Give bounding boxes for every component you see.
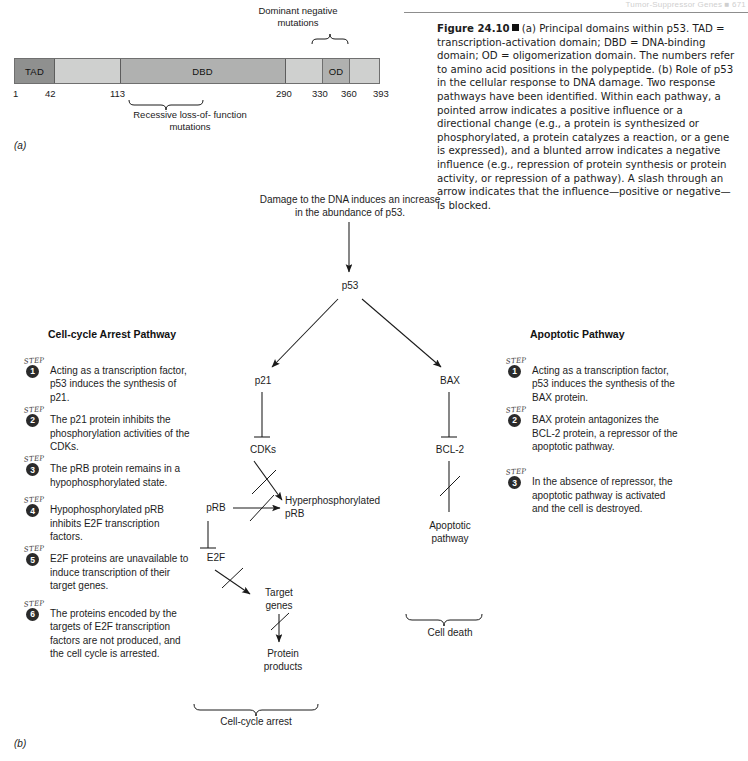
left-step-2-text: The p21 protein inhibits the phosphoryla… [50,414,190,452]
domain-bar-outline: TAD DBD OD [14,58,380,84]
bracket-cell-death [406,614,482,626]
left-step-2: STEP 2 The p21 protein inhibits the phos… [24,413,192,453]
domain-tick-42 [54,59,55,83]
p53-domain-bar: TAD DBD OD [14,58,380,84]
caption-figure-label: Figure 24.10 [437,23,510,34]
right-pathway-title: Apoptotic Pathway [530,328,625,340]
node-apoptotic-pathway: Apoptotic pathway [414,520,486,545]
left-step-5-number: 5 [26,553,39,566]
node-prb: pRB [195,502,237,515]
right-step-2: STEP 2 BAX protein antagonizes the BCL-2… [506,413,684,453]
node-e2f: E2F [196,552,236,565]
node-p53: p53 [330,280,370,293]
left-step-1-text: Acting as a transcription factor, p53 in… [50,365,187,403]
brace-dominant-negative [312,34,348,44]
node-target-genes: Target genes [252,587,306,612]
panel-a-letter: (a) [14,140,26,151]
slash-target-genes-block [271,613,289,630]
left-step-5: STEP 5 E2F proteins are unavailable to i… [24,552,192,592]
domain-segment-tad: TAD [15,59,54,83]
axis-number-1: 1 [13,88,18,99]
left-step-4-text: Hypophosphorylated pRB inhibits E2F tran… [50,504,164,542]
right-step-3-text: In the absence of repressor, the apoptot… [532,476,673,514]
domain-segment-od: OD [322,59,350,83]
axis-number-330: 330 [312,88,328,99]
caption-square-icon [512,24,519,31]
bracket-label-cell-death: Cell death [392,627,508,638]
axis-number-42: 42 [45,88,56,99]
bracket-cell-cycle-arrest [194,704,318,716]
node-p21: p21 [243,375,283,388]
axis-number-113: 113 [110,88,125,99]
running-head: Tumor-Suppressor Genes ■ 671 [626,0,746,9]
axis-number-393: 393 [373,88,389,99]
left-step-3-number: 3 [26,463,39,476]
right-step-3-number: 3 [508,476,521,489]
domain-segment-dbd: DBD [120,59,285,83]
right-pathway-steps: STEP 1 Acting as a transcription factor,… [506,364,684,525]
right-step-2-number: 2 [508,414,521,427]
right-step-3: STEP 3 In the absence of repressor, the … [506,475,684,515]
bracket-label-cell-cycle-arrest: Cell-cycle arrest [186,716,326,727]
arrow-p53-to-p21 [272,299,338,367]
slash-prb-hyperphos-block [250,495,274,521]
left-step-3: STEP 3 The pRB protein remains in a hypo… [24,462,192,489]
right-step-2-text: BAX protein antagonizes the BCL-2 protei… [532,414,678,452]
left-step-6-number: 6 [26,608,39,621]
figure-page: Tumor-Suppressor Genes ■ 671 TAD DBD OD … [0,0,748,761]
right-step-1: STEP 1 Acting as a transcription factor,… [506,364,684,404]
left-step-4-number: 4 [26,504,39,517]
recessive-loss-label: Recessive loss-of- function mutations [125,109,255,133]
node-cdks: CDKs [238,444,288,457]
slash-bcl2-block [440,476,460,496]
figure-caption: Figure 24.10(a) Principal domains within… [437,22,737,212]
domain-segment-spacer3 [350,59,379,83]
left-step-1-number: 1 [26,365,39,378]
domain-tick-113 [120,59,121,83]
left-pathway-title: Cell-cycle Arrest Pathway [48,328,176,340]
left-step-4: STEP 4 Hypophosphorylated pRB inhibits E… [24,503,192,543]
left-pathway-steps: STEP 1 Acting as a transcription factor,… [24,364,192,669]
node-bax: BAX [428,375,472,388]
left-step-1: STEP 1 Acting as a transcription factor,… [24,364,192,404]
arrow-cdks-to-phosphorylation [254,461,282,500]
arrow-p53-to-bax [362,299,441,367]
top-rule [404,12,748,13]
slash-cdks-block [252,470,276,494]
node-bcl2: BCL-2 [424,444,476,457]
panel-b-letter: (b) [14,738,26,749]
left-step-2-number: 2 [26,414,39,427]
domain-segment-spacer2 [285,59,322,83]
left-step-6: STEP 6 The proteins encoded by the targe… [24,607,192,661]
damage-description: Damage to the DNA induces an increase in… [255,193,445,219]
domain-segment-spacer1 [54,59,120,83]
dominant-negative-label: Dominant negative mutations [238,5,358,29]
left-step-6-text: The proteins encoded by the targets of E… [50,608,181,659]
axis-number-290: 290 [276,88,292,99]
slash-e2f-block [222,568,243,588]
right-step-1-number: 1 [508,365,521,378]
caption-text-b: (b) Role of p53 in the cellular response… [437,64,733,211]
node-hyperphosphorylated-prb: Hyperphosphorylated pRB [285,495,415,520]
left-step-3-text: The pRB protein remains in a hypophospho… [50,463,180,487]
domain-tick-290 [285,59,286,83]
arrow-e2f-to-target-genes [215,570,250,594]
axis-number-360: 360 [341,88,357,99]
node-protein-products: Protein products [252,648,314,673]
right-step-1-text: Acting as a transcription factor, p53 in… [532,365,675,403]
left-step-5-text: E2F proteins are unavailable to induce t… [50,553,188,591]
